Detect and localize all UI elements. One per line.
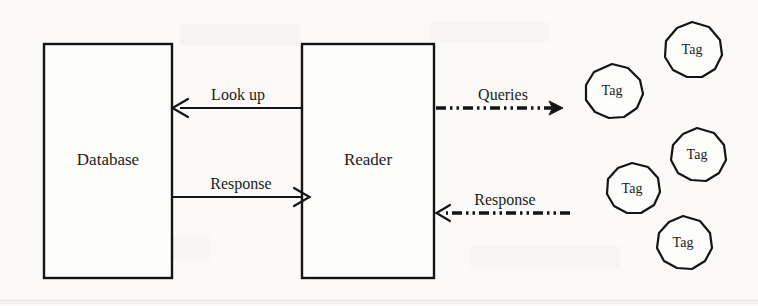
- reader-label: Reader: [344, 150, 392, 169]
- tag-node-5[interactable]: Tag: [657, 216, 712, 269]
- edge-db-response[interactable]: Response: [173, 175, 310, 206]
- tag-4-label: Tag: [687, 147, 708, 162]
- lookup-edge-label: Look up: [211, 86, 265, 104]
- tag-node-4[interactable]: Tag: [671, 128, 726, 181]
- tag-5-label: Tag: [673, 235, 694, 250]
- tag-3-label: Tag: [622, 181, 643, 196]
- edge-tag-response[interactable]: Response: [437, 191, 571, 221]
- tag-response-edge-label: Response: [474, 191, 535, 209]
- node-database[interactable]: Database: [44, 44, 172, 278]
- tag-node-3[interactable]: Tag: [607, 163, 660, 213]
- node-reader[interactable]: Reader: [302, 44, 434, 278]
- tag-node-1[interactable]: Tag: [586, 64, 643, 118]
- database-label: Database: [77, 150, 139, 169]
- rfid-reader-diagram: Database Reader Look up Response Queries: [0, 0, 758, 306]
- tag-node-2[interactable]: Tag: [665, 22, 722, 77]
- tag-1-label: Tag: [602, 83, 623, 98]
- edge-queries[interactable]: Queries: [436, 86, 563, 115]
- db-response-edge-label: Response: [210, 175, 271, 193]
- tag-2-label: Tag: [682, 42, 703, 57]
- queries-edge-label: Queries: [478, 86, 528, 103]
- edge-lookup[interactable]: Look up: [173, 86, 303, 117]
- diagram-canvas: Database Reader Look up Response Queries: [0, 0, 758, 306]
